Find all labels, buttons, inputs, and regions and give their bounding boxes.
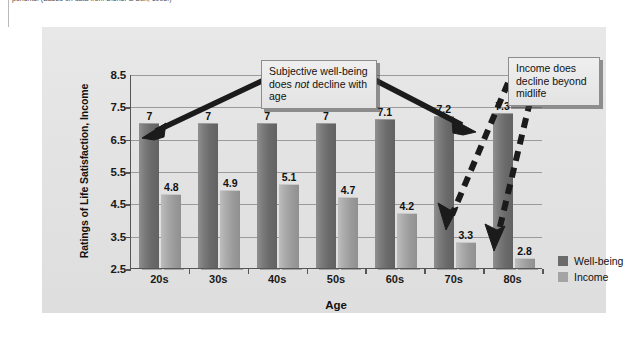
y-axis-tick-mark bbox=[126, 140, 131, 142]
wellbeing-callout: Subjective well-being does not decline w… bbox=[261, 60, 377, 109]
bar-value-label: 7 bbox=[249, 110, 285, 122]
wellbeing-callout-line2-pre: does bbox=[269, 78, 295, 90]
x-tick-label-50s: 50s bbox=[307, 273, 365, 285]
income-callout-line2: decline beyond bbox=[516, 75, 593, 88]
bar-shadow bbox=[518, 268, 538, 270]
bar-value-label: 5.1 bbox=[271, 171, 307, 183]
bar-shadow bbox=[282, 268, 302, 270]
wellbeing-callout-line2: does not decline with bbox=[269, 78, 370, 91]
legend-item-well-being: Well-being bbox=[558, 255, 628, 267]
gridline bbox=[131, 204, 542, 205]
income-callout-line1: Income does bbox=[516, 62, 593, 75]
bar-80s-income bbox=[515, 258, 535, 268]
bar-shadow bbox=[164, 268, 184, 270]
y-tick-label: 4.5 bbox=[92, 198, 126, 210]
gridline bbox=[131, 140, 542, 141]
bar-shadow bbox=[142, 268, 162, 270]
x-tick-label-20s: 20s bbox=[130, 273, 188, 285]
figure-panel-inner: Ratings of Life Satisfaction, Income 8.5… bbox=[42, 27, 606, 313]
income-callout: Income does decline beyond midlife bbox=[508, 57, 600, 106]
bar-value-label: 4.7 bbox=[330, 184, 366, 196]
bar-shadow bbox=[223, 268, 243, 270]
y-tick-label: 5.5 bbox=[92, 166, 126, 178]
source-caption: ponents. (Based on data from Diener & Su… bbox=[12, 0, 412, 4]
bar-shadow bbox=[341, 268, 361, 270]
bar-50s-income bbox=[338, 197, 358, 268]
wellbeing-callout-line1: Subjective well-being bbox=[269, 65, 370, 78]
y-tick-label: 6.5 bbox=[92, 134, 126, 146]
bar-value-label: 4.9 bbox=[212, 177, 248, 189]
y-tick-label: 8.5 bbox=[92, 69, 126, 81]
y-axis-tick-mark bbox=[126, 237, 131, 239]
x-tick-label-80s: 80s bbox=[484, 273, 542, 285]
y-axis-tick-labels: 8.57.56.55.54.53.52.5 bbox=[86, 75, 126, 269]
bar-value-label: 7.2 bbox=[426, 103, 462, 115]
x-tick-label-30s: 30s bbox=[189, 273, 247, 285]
income-swatch bbox=[558, 272, 568, 282]
y-tick-label: 3.5 bbox=[92, 231, 126, 243]
bar-shadow bbox=[400, 268, 420, 270]
legend-item-income: Income bbox=[558, 271, 628, 283]
income-callout-line3: midlife bbox=[516, 87, 593, 100]
y-axis-tick-mark bbox=[126, 204, 131, 206]
bar-shadow bbox=[201, 268, 221, 270]
bar-60s-income bbox=[397, 213, 417, 268]
bar-40s-well-being bbox=[257, 123, 277, 269]
y-axis-tick-mark bbox=[126, 172, 131, 174]
gridline bbox=[131, 172, 542, 173]
bar-value-label: 4.8 bbox=[153, 181, 189, 193]
bar-shadow bbox=[496, 268, 516, 270]
y-axis-tick-mark bbox=[126, 107, 131, 109]
x-axis-tick-mark bbox=[542, 269, 544, 274]
page-margin-rule bbox=[8, 0, 9, 27]
x-tick-label-60s: 60s bbox=[366, 273, 424, 285]
bar-70s-income bbox=[456, 242, 476, 268]
bar-shadow bbox=[260, 268, 280, 270]
y-tick-label: 7.5 bbox=[92, 101, 126, 113]
bar-value-label: 2.8 bbox=[507, 245, 543, 257]
x-axis-title: Age bbox=[130, 299, 542, 311]
wellbeing-swatch bbox=[558, 256, 568, 266]
bar-value-label: 7 bbox=[308, 110, 344, 122]
bar-value-label: 7 bbox=[131, 110, 167, 122]
bar-value-label: 3.3 bbox=[448, 229, 484, 241]
wellbeing-callout-emphasis: not bbox=[295, 78, 310, 90]
x-tick-label-70s: 70s bbox=[425, 273, 483, 285]
bar-shadow bbox=[459, 268, 479, 270]
figure-panel: Ratings of Life Satisfaction, Income 8.5… bbox=[42, 27, 606, 313]
wellbeing-callout-line2-post: decline with bbox=[309, 78, 367, 90]
bar-70s-well-being bbox=[434, 116, 454, 268]
bar-30s-income bbox=[220, 190, 240, 268]
bar-20s-income bbox=[161, 194, 181, 268]
legend-label: Income bbox=[574, 271, 608, 283]
y-tick-label: 2.5 bbox=[92, 263, 126, 275]
bar-value-label: 4.2 bbox=[389, 200, 425, 212]
bar-shadow bbox=[378, 268, 398, 270]
bar-40s-income bbox=[279, 184, 299, 268]
wellbeing-callout-line3: age bbox=[269, 90, 370, 103]
bar-shadow bbox=[437, 268, 457, 270]
chart-legend: Well-beingIncome bbox=[558, 255, 628, 287]
bar-30s-well-being bbox=[198, 123, 218, 269]
bar-60s-well-being bbox=[375, 119, 395, 268]
legend-label: Well-being bbox=[574, 255, 623, 267]
bar-value-label: 7 bbox=[190, 110, 226, 122]
bar-shadow bbox=[319, 268, 339, 270]
y-axis-tick-mark bbox=[126, 269, 131, 271]
x-tick-label-40s: 40s bbox=[248, 273, 306, 285]
bar-20s-well-being bbox=[139, 123, 159, 269]
